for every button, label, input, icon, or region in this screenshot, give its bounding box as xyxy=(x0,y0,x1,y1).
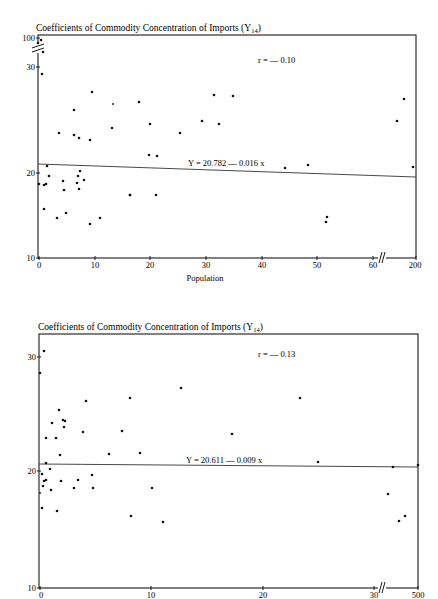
svg-text:30: 30 xyxy=(27,62,36,72)
chart1-data-points xyxy=(37,39,415,226)
svg-text:0: 0 xyxy=(37,260,41,270)
chart1-title: Coefficients of Commodity Concentration … xyxy=(36,23,261,34)
svg-text:30: 30 xyxy=(202,260,211,270)
chart2-data-points xyxy=(39,350,420,524)
chart1-x-axis-break xyxy=(378,252,386,264)
svg-text:500: 500 xyxy=(412,590,425,599)
svg-text:200: 200 xyxy=(409,260,422,270)
svg-text:50: 50 xyxy=(313,260,322,270)
svg-text:30: 30 xyxy=(28,352,37,362)
svg-text:10: 10 xyxy=(27,253,36,263)
svg-text:20: 20 xyxy=(28,466,37,476)
svg-text:0: 0 xyxy=(39,590,43,599)
svg-text:10: 10 xyxy=(91,260,100,270)
svg-text:20: 20 xyxy=(146,260,155,270)
svg-text:30: 30 xyxy=(370,590,379,599)
svg-text:100: 100 xyxy=(22,33,35,43)
chart2-x-axis-break xyxy=(378,582,386,594)
chart-population: Coefficients of Commodity Concentration … xyxy=(22,23,421,283)
chart1-y-ticks: 10 20 30 100 xyxy=(22,33,40,263)
svg-text:20: 20 xyxy=(27,168,36,178)
svg-text:20: 20 xyxy=(259,590,268,599)
chart1-plot-frame xyxy=(38,35,416,258)
svg-text:10: 10 xyxy=(147,590,156,599)
charts-figure: Coefficients of Commodity Concentration … xyxy=(0,0,438,599)
chart2-regression-label: Y = 20.611 — 0.009 x xyxy=(186,455,263,465)
chart1-x-axis-label: Population xyxy=(187,273,225,283)
chart2-title: Coefficients of Commodity Concentration … xyxy=(38,322,263,333)
chart2-correlation-label: r = — 0.13 xyxy=(258,349,295,359)
chart1-regression-label: Y = 20.782 — 0.016 x xyxy=(188,158,265,168)
svg-text:40: 40 xyxy=(258,260,267,270)
chart-second: Coefficients of Commodity Concentration … xyxy=(28,322,425,599)
chart1-correlation-label: r = — 0.10 xyxy=(258,55,295,65)
svg-text:10: 10 xyxy=(28,583,37,593)
svg-text:60: 60 xyxy=(369,260,378,270)
